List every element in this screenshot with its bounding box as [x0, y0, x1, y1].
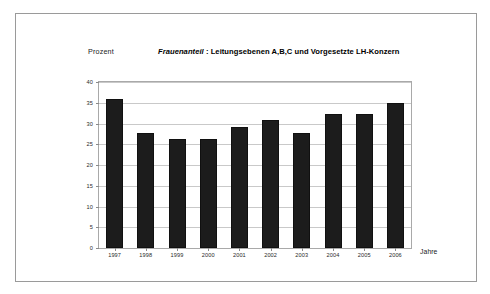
bar [356, 114, 373, 248]
y-axis-title: Prozent [88, 47, 114, 56]
bar [293, 133, 310, 248]
bar [106, 99, 123, 248]
x-tick-mark [146, 248, 147, 251]
x-tick-mark [239, 248, 240, 251]
y-tick-label: 15 [87, 183, 93, 189]
chart-title-emphasis: Frauenanteil [158, 47, 204, 56]
bar [169, 139, 186, 248]
bar [262, 120, 279, 248]
y-tick-label: 25 [87, 141, 93, 147]
x-tick-mark [208, 248, 209, 251]
y-tick-label: 40 [87, 79, 93, 85]
y-tick-label: 30 [87, 121, 93, 127]
y-tick-label: 5 [90, 224, 93, 230]
x-tick-label: 2004 [327, 252, 340, 258]
y-tick-label: 35 [87, 100, 93, 106]
x-tick-mark [177, 248, 178, 251]
x-tick-label: 2006 [389, 252, 402, 258]
x-tick-mark [333, 248, 334, 251]
plot-area: 0510152025303540 19971998199920002001200… [98, 81, 412, 249]
bar [200, 139, 217, 248]
chart-title-separator: : [204, 47, 211, 56]
x-tick-label: 2001 [233, 252, 246, 258]
x-tick-mark [364, 248, 365, 251]
y-tick-label: 10 [87, 204, 93, 210]
y-tick-label: 20 [87, 162, 93, 168]
x-tick-mark [302, 248, 303, 251]
bar [231, 127, 248, 248]
x-tick-label: 2005 [358, 252, 371, 258]
chart-title: Frauenanteil : Leitungsebenen A,B,C und … [158, 47, 400, 56]
x-tick-label: 2000 [202, 252, 215, 258]
x-tick-mark [271, 248, 272, 251]
y-tick-label: 0 [90, 245, 93, 251]
x-tick-label: 1997 [108, 252, 121, 258]
x-tick-label: 2003 [295, 252, 308, 258]
bar [325, 114, 342, 248]
chart-figure: Prozent Frauenanteil : Leitungsebenen A,… [0, 0, 490, 294]
x-axis-ticks: 1997199819992000200120022003200420052006 [99, 248, 411, 252]
bar [387, 103, 404, 248]
x-tick-label: 2002 [264, 252, 277, 258]
chart-title-rest: Leitungsebenen A,B,C und Vorgesetzte LH-… [211, 47, 400, 56]
x-tick-mark [395, 248, 396, 251]
bars-layer [99, 82, 411, 248]
x-axis-title: Jahre [420, 248, 438, 255]
x-tick-mark [115, 248, 116, 251]
x-tick-label: 1998 [139, 252, 152, 258]
bar [137, 133, 154, 248]
x-tick-label: 1999 [171, 252, 184, 258]
slide-frame: Prozent Frauenanteil : Leitungsebenen A,… [15, 13, 477, 282]
